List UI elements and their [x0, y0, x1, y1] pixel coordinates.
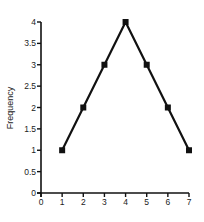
data-point-marker [101, 62, 107, 68]
y-axis: 00.511.522.533.54 [24, 17, 41, 198]
x-tick-label: 2 [81, 197, 86, 207]
y-tick-label: 2.5 [24, 81, 36, 91]
y-tick-label: 3 [31, 60, 36, 70]
data-point-marker [165, 105, 171, 111]
y-tick-label: 0 [31, 188, 36, 198]
x-tick-label: 0 [39, 197, 44, 207]
data-point-marker [59, 147, 65, 153]
series-line [62, 22, 189, 150]
x-tick-label: 4 [123, 197, 128, 207]
data-point-marker [144, 62, 150, 68]
x-tick-label: 1 [60, 197, 65, 207]
y-tick-label: 0.5 [24, 167, 36, 177]
x-tick-label: 7 [187, 197, 192, 207]
x-axis: 01234567 [37, 193, 192, 207]
data-point-marker [123, 19, 129, 25]
x-tick-label: 3 [102, 197, 107, 207]
y-axis-title: Frequency [5, 86, 15, 129]
x-tick-label: 5 [144, 197, 149, 207]
y-tick-label: 1.5 [24, 124, 36, 134]
data-series [59, 19, 192, 153]
y-tick-label: 2 [31, 103, 36, 113]
data-point-marker [186, 147, 192, 153]
data-point-marker [80, 105, 86, 111]
y-tick-label: 1 [31, 145, 36, 155]
x-tick-label: 6 [165, 197, 170, 207]
y-tick-label: 4 [31, 17, 36, 27]
frequency-line-chart: 00.511.522.533.54 01234567 Frequency [0, 0, 204, 222]
y-tick-label: 3.5 [24, 38, 36, 48]
